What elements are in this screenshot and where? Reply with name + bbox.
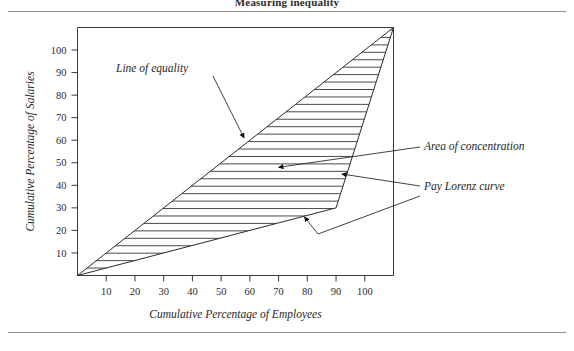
x-tick-label: 20	[130, 286, 141, 297]
x-tick-label: 40	[187, 286, 198, 297]
figure-container: Measuring inequality 1020304050607080901…	[0, 0, 574, 351]
x-tick-label: 10	[101, 286, 112, 297]
y-tick-label: 60	[56, 135, 67, 146]
y-tick-label: 20	[56, 225, 67, 236]
pay-lorenz-curve-label: Pay Lorenz curve	[423, 180, 505, 193]
annotation-pay-lorenz-curve: Pay Lorenz curve	[304, 174, 504, 234]
y-tick-label: 40	[56, 180, 67, 191]
y-axis-title: Cumulative Percentage of Salaries	[24, 71, 37, 232]
y-tick-label: 80	[56, 90, 67, 101]
y-tick-label: 30	[56, 202, 67, 213]
y-tick-label: 10	[56, 248, 67, 259]
x-axis-ticks	[106, 276, 365, 282]
line-of-equality-label: Line of equality	[115, 62, 189, 75]
x-tick-label: 70	[273, 286, 284, 297]
y-tick-label: 50	[56, 157, 67, 168]
pay-lorenz-curve-leader-lower	[304, 196, 420, 234]
x-axis-title: Cumulative Percentage of Employees	[149, 308, 322, 321]
x-axis-tick-labels: 102030405060708090100	[101, 286, 373, 297]
x-tick-label: 80	[302, 286, 313, 297]
y-axis-tick-labels: 102030405060708090100	[51, 45, 67, 259]
x-tick-label: 60	[245, 286, 256, 297]
annotation-line-of-equality: Line of equality	[115, 62, 244, 138]
y-axis-ticks	[72, 50, 78, 253]
x-tick-label: 100	[357, 286, 373, 297]
y-tick-label: 70	[56, 112, 67, 123]
lorenz-curve-chart: 102030405060708090100 102030405060708090…	[0, 0, 574, 351]
x-tick-label: 30	[158, 286, 169, 297]
area-of-concentration-label: Area of concentration	[423, 140, 525, 153]
pay-lorenz-curve-leader-upper	[342, 174, 420, 186]
y-tick-label: 90	[56, 67, 67, 78]
y-tick-label: 100	[51, 45, 67, 56]
x-tick-label: 90	[331, 286, 342, 297]
x-tick-label: 50	[216, 286, 227, 297]
annotation-area-of-concentration: Area of concentration	[279, 140, 525, 167]
line-of-equality-leader	[213, 76, 244, 138]
